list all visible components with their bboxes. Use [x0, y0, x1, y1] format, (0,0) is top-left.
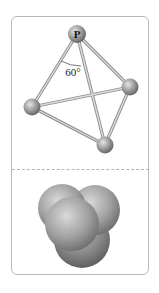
dashed-divider	[12, 169, 149, 170]
space-filling-model	[38, 184, 120, 268]
angle-label: 60°	[65, 66, 80, 78]
bonds	[32, 34, 130, 145]
atom-bottom	[97, 137, 114, 154]
atom-right	[122, 79, 139, 96]
atom-label-p: P	[74, 28, 81, 40]
atom-left	[24, 99, 41, 116]
p4-diagram: P 60°	[0, 0, 159, 293]
